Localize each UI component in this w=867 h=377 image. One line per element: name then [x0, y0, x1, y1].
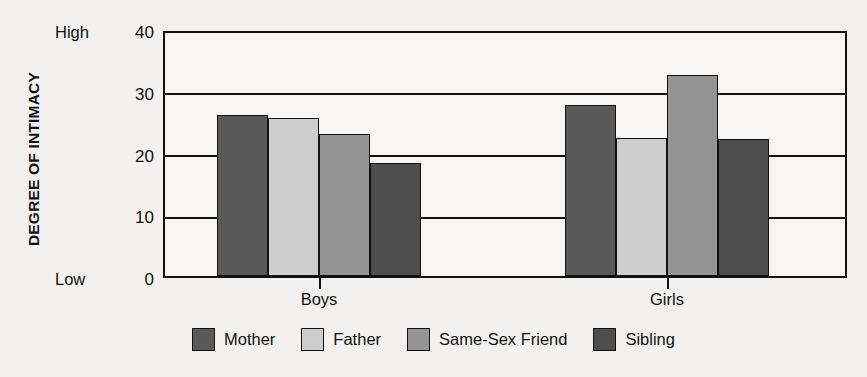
y-tick-40: 40: [112, 24, 154, 41]
y-tick-0: 0: [112, 271, 154, 288]
y-tick-10: 10: [112, 209, 154, 226]
legend-swatch-father-icon: [301, 328, 324, 351]
x-tick-boys: [319, 278, 321, 289]
legend-item-father: Father: [301, 328, 381, 351]
y-axis-low-label: Low: [55, 271, 117, 288]
legend-swatch-sibling-icon: [593, 328, 616, 351]
legend-label-same-sex-friend: Same-Sex Friend: [439, 331, 567, 348]
legend-swatch-same-sex-friend-icon: [407, 328, 430, 351]
bar-chart-figure: DEGREE OF INTIMACY High Low 40 30 20 10 …: [0, 0, 867, 377]
gridline-30: [165, 93, 845, 95]
bar-girls-mother: [565, 105, 616, 276]
legend-label-sibling: Sibling: [625, 331, 675, 348]
legend-label-father: Father: [333, 331, 381, 348]
x-tick-girls: [667, 278, 669, 289]
x-label-girls: Girls: [587, 290, 747, 309]
y-axis-title: DEGREE OF INTIMACY: [25, 29, 43, 289]
bar-boys-mother: [217, 115, 268, 276]
legend: Mother Father Same-Sex Friend Sibling: [0, 328, 867, 351]
legend-label-mother: Mother: [224, 331, 275, 348]
bar-girls-sibling: [718, 139, 769, 276]
legend-item-mother: Mother: [192, 328, 275, 351]
bar-boys-father: [268, 118, 319, 276]
bar-boys-sibling: [370, 163, 421, 276]
y-tick-30: 30: [112, 86, 154, 103]
y-tick-20: 20: [112, 148, 154, 165]
y-axis-high-label: High: [55, 24, 117, 41]
bar-girls-father: [616, 138, 667, 276]
legend-swatch-mother-icon: [192, 328, 215, 351]
plot-area: [163, 31, 847, 278]
bar-girls-same-sex-friend: [667, 75, 718, 276]
x-label-boys: Boys: [239, 290, 399, 309]
legend-item-same-sex-friend: Same-Sex Friend: [407, 328, 567, 351]
bar-boys-same-sex-friend: [319, 134, 370, 276]
legend-item-sibling: Sibling: [593, 328, 675, 351]
